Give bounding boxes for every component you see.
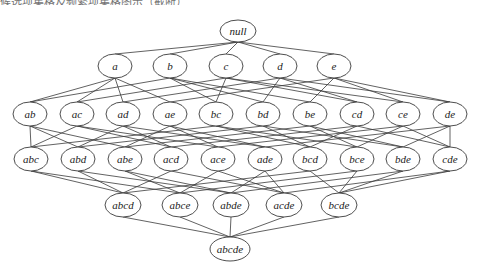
edge-abcd-abcde (123, 217, 230, 237)
node-label: bd (258, 108, 270, 120)
edge-ae-ace (170, 126, 218, 147)
node-abcd: abcd (105, 193, 141, 217)
node-label: ac (72, 108, 83, 120)
node-label: bce (349, 153, 364, 165)
node-bde: bde (386, 147, 420, 171)
node-label: bde (395, 153, 411, 165)
node-ae: ae (153, 102, 187, 126)
node-ce: ce (386, 102, 420, 126)
edge-abc-abcd (31, 171, 123, 193)
node-label: acde (274, 199, 295, 211)
edge-ab-abc (30, 126, 31, 147)
node-acde: acde (266, 193, 302, 217)
edge-cd-acd (171, 126, 357, 147)
edge-bcde-abcde (230, 217, 339, 237)
node-label: abc (23, 153, 39, 165)
edge-ab-abe (30, 126, 125, 147)
node-a: a (98, 54, 132, 78)
edge-null-a (115, 42, 238, 54)
node-bce: bce (340, 147, 374, 171)
node-label: bc (211, 108, 222, 120)
node-e: e (317, 54, 351, 78)
node-label: d (277, 60, 283, 72)
node-label: be (305, 108, 316, 120)
edge-b-be (170, 78, 310, 102)
node-c: c (209, 54, 243, 78)
edge-bde-abde (231, 171, 403, 193)
node-acd: acd (154, 147, 188, 171)
edge-bd-abd (78, 126, 263, 147)
node-bcde: bcde (321, 193, 357, 217)
itemset-lattice-diagram: nullabcdeabacadaebcbdbecdcedeabcabdabeac… (0, 0, 481, 274)
edge-be-abe (125, 126, 310, 147)
node-abe: abe (108, 147, 142, 171)
edge-a-ac (77, 78, 115, 102)
node-label: ace (210, 153, 225, 165)
node-label: cd (352, 108, 363, 120)
node-label: cde (442, 153, 457, 165)
node-label: bcde (329, 199, 350, 211)
edge-ce-ace (218, 126, 403, 147)
node-ac: ac (60, 102, 94, 126)
node-label: ae (165, 108, 176, 120)
node-label: abde (220, 199, 242, 211)
node-label: abce (170, 199, 191, 211)
edge-acd-abcd (123, 171, 171, 193)
node-bcd: bcd (293, 147, 327, 171)
node-bd: bd (246, 102, 280, 126)
node-abde: abde (213, 193, 249, 217)
edge-cd-cde (357, 126, 450, 147)
node-label: e (332, 60, 337, 72)
edge-null-e (238, 42, 334, 54)
node-abd: abd (61, 147, 95, 171)
node-ade: ade (248, 147, 282, 171)
edge-ace-abce (180, 171, 218, 193)
edge-acde-abcde (230, 217, 284, 237)
edge-cde-acde (284, 171, 450, 193)
edge-b-bd (170, 78, 263, 102)
node-d: d (263, 54, 297, 78)
node-label: acd (163, 153, 179, 165)
node-label: ce (398, 108, 408, 120)
node-label: abe (117, 153, 133, 165)
node-label: null (229, 25, 246, 37)
node-cde: cde (433, 147, 467, 171)
node-abc: abc (14, 147, 48, 171)
node-bc: bc (199, 102, 233, 126)
node-label: abd (70, 153, 87, 165)
node-de: de (433, 102, 467, 126)
node-abcde: abcde (210, 237, 250, 261)
edge-de-ade (265, 126, 450, 147)
node-ace: ace (201, 147, 235, 171)
node-label: ab (25, 108, 37, 120)
edge-abc-abce (31, 171, 180, 193)
edge-bc-abc (31, 126, 216, 147)
edge-abce-abcde (180, 217, 230, 237)
edge-a-ae (115, 78, 170, 102)
node-label: abcd (112, 199, 134, 211)
node-null: null (220, 20, 256, 42)
edge-abde-abcde (230, 217, 231, 237)
node-label: de (445, 108, 456, 120)
node-label: b (167, 60, 173, 72)
node-label: a (112, 60, 118, 72)
node-label: ad (118, 108, 130, 120)
edge-null-d (238, 42, 280, 54)
node-be: be (293, 102, 327, 126)
node-b: b (153, 54, 187, 78)
node-abce: abce (162, 193, 198, 217)
lattice-nodes: nullabcdeabacadaebcbdbecdcedeabcabdabeac… (13, 20, 467, 261)
edge-d-bd (263, 78, 280, 102)
node-cd: cd (340, 102, 374, 126)
edge-d-de (280, 78, 450, 102)
node-label: ade (257, 153, 273, 165)
node-ab: ab (13, 102, 47, 126)
node-label: abcde (217, 243, 243, 255)
node-ad: ad (106, 102, 140, 126)
node-label: c (224, 60, 229, 72)
node-label: bcd (302, 153, 318, 165)
edge-a-ad (115, 78, 123, 102)
